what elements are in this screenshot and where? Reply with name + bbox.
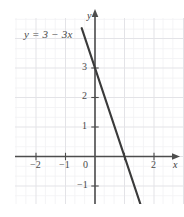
- x-tick-label-neg2: −2: [30, 159, 41, 170]
- y-tick-label-1: 1: [82, 120, 87, 131]
- y-axis-label: y: [87, 10, 91, 21]
- y-tick-label-3: 3: [82, 61, 87, 72]
- x-axis-label: x: [173, 159, 177, 170]
- y-tick-label-2: 2: [82, 90, 87, 101]
- origin-tick-label: 0: [83, 159, 88, 170]
- x-tick-label-2: 2: [151, 159, 156, 170]
- plotted-line: [82, 28, 150, 217]
- x-tick-label-neg1: −1: [59, 159, 70, 170]
- equation-label: y = 3 − 3x: [24, 28, 73, 40]
- y-tick-label-neg1: −1: [77, 179, 88, 190]
- graph-figure: y = 3 − 3x y x 0 −2 −1 2 3 2 1 −1: [0, 0, 184, 217]
